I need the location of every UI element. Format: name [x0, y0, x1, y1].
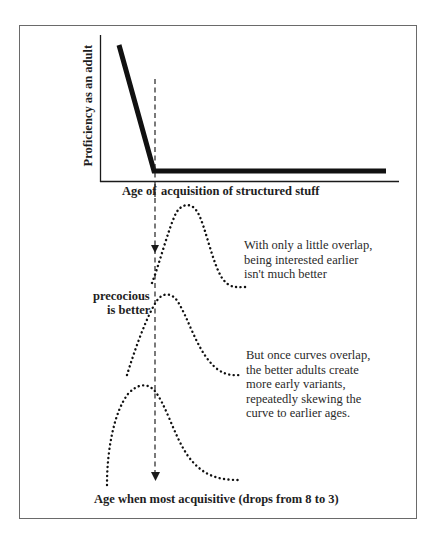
note-2-line: more early variants,	[246, 377, 346, 391]
note-1-line: being interested earlier	[244, 253, 359, 267]
side-label-line1: precocious	[93, 289, 150, 303]
side-label-line2: is better	[107, 303, 150, 317]
note-2-line: But once curves overlap,	[246, 348, 370, 362]
arrowhead-down-icon	[151, 245, 159, 253]
proficiency-line	[119, 45, 386, 171]
x-axis-label-part1: Age of	[122, 184, 156, 198]
note-2-line: the better adults create	[246, 363, 359, 377]
note-2-line: curve to earlier ages.	[246, 406, 350, 420]
y-axis-label: Proficiency as an adult	[81, 55, 96, 167]
arrowhead-down-icon	[151, 472, 160, 481]
distribution-curve-1	[152, 205, 246, 287]
note-1-line: With only a little overlap,	[244, 238, 372, 252]
x-axis-label-part2: acquisition of structured stuff	[161, 184, 319, 198]
distribution-curve-3	[107, 385, 240, 485]
note-2-line: repeatedly skewing the	[246, 392, 361, 406]
bottom-axis-label: Age when most acquisitive (drops from 8 …	[94, 492, 339, 506]
diagram-canvas	[0, 0, 436, 543]
note-1-line: isn't much better	[244, 267, 327, 281]
